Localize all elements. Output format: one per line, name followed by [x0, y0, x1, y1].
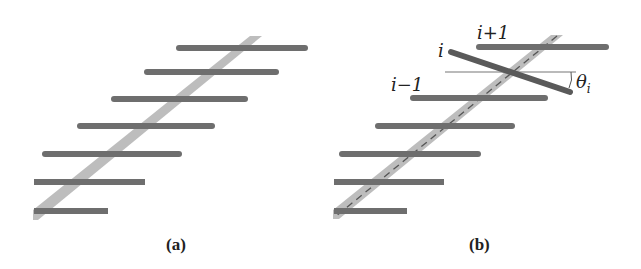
angle-arc	[569, 72, 572, 88]
theta-symbol: θ	[576, 71, 587, 92]
label-i: i	[438, 40, 444, 61]
panel-b: i+1 i i−1 θi (b)	[333, 22, 606, 254]
label-i-minus-1: i−1	[391, 74, 423, 95]
panel-a: (a)	[33, 36, 305, 254]
label-theta: θi	[576, 71, 591, 96]
label-i-plus-1: i+1	[477, 22, 509, 43]
caption-b: (b)	[469, 235, 490, 254]
figure: (a) i+1 i i−1 θi (b)	[0, 0, 641, 269]
caption-a: (a)	[166, 235, 186, 254]
theta-subscript: i	[587, 82, 591, 96]
